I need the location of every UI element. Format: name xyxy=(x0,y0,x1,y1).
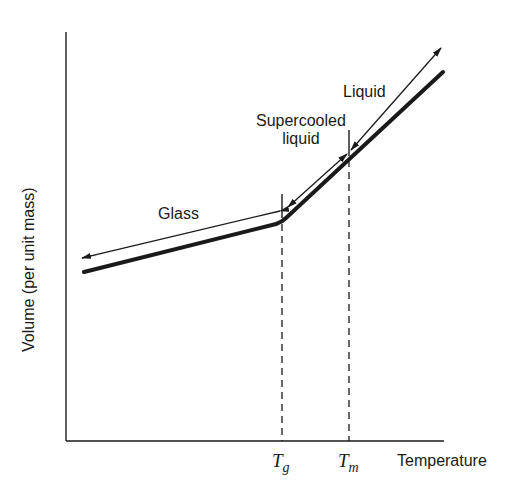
supercooled-label-line2: liquid xyxy=(256,130,346,147)
x-axis-label: Temperature xyxy=(397,452,487,469)
diagram-canvas xyxy=(0,0,532,493)
y-axis-label: Volume (per unit mass) xyxy=(20,187,37,352)
volume-curve xyxy=(84,72,443,272)
tg-tick-label: Tg xyxy=(272,450,290,476)
supercooled-label-line1: Supercooled xyxy=(256,112,346,129)
supercooled-label: Supercooled liquid xyxy=(256,112,346,147)
liquid-label: Liquid xyxy=(343,83,386,100)
tm-tick-label: Tm xyxy=(338,450,359,476)
glass-label: Glass xyxy=(158,205,199,222)
supercooled-range-arrow xyxy=(288,154,347,207)
